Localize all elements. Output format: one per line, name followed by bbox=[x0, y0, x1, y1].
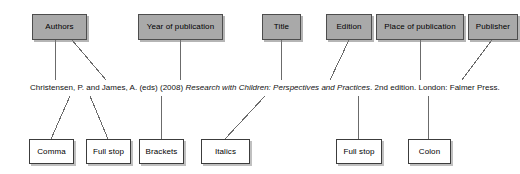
punctuation-box-comma-label: Comma bbox=[37, 148, 66, 156]
element-box-title-label: Title bbox=[274, 23, 289, 31]
element-box-place-of-publication-label: Place of publication bbox=[384, 23, 455, 31]
element-box-authors-label: Authors bbox=[45, 23, 73, 31]
punctuation-box-full-stop-2[interactable]: Full stop bbox=[336, 139, 382, 164]
wire-comma bbox=[51, 96, 70, 139]
punctuation-box-colon-label: Colon bbox=[419, 148, 440, 156]
element-box-publisher-label: Publisher bbox=[476, 23, 510, 31]
citation-text: Christensen, P. and James, A. (eds) (200… bbox=[30, 82, 500, 93]
element-box-title[interactable]: Title bbox=[262, 14, 301, 40]
wire-fullstop-1 bbox=[90, 96, 108, 139]
citation-breakdown-diagram: Authors Year of publication Title Editio… bbox=[0, 0, 520, 174]
element-box-year-of-publication-label: Year of publication bbox=[147, 23, 214, 31]
citation-authors-year: Christensen, P. and James, A. (eds) (200… bbox=[30, 83, 185, 92]
element-box-edition[interactable]: Edition bbox=[326, 14, 372, 40]
wire-italics bbox=[225, 96, 265, 139]
element-box-authors[interactable]: Authors bbox=[32, 14, 87, 40]
punctuation-box-italics[interactable]: Italics bbox=[201, 139, 250, 164]
wire-authors-2 bbox=[72, 40, 106, 80]
punctuation-box-full-stop-1[interactable]: Full stop bbox=[86, 139, 131, 164]
punctuation-box-comma[interactable]: Comma bbox=[29, 139, 74, 164]
punctuation-box-brackets[interactable]: Brackets bbox=[139, 139, 184, 164]
citation-title-italic: Research with Children: Perspectives and… bbox=[185, 83, 370, 92]
wire-publisher bbox=[462, 40, 492, 80]
punctuation-box-brackets-label: Brackets bbox=[146, 148, 178, 156]
element-box-edition-label: Edition bbox=[336, 23, 361, 31]
punctuation-box-full-stop-2-label: Full stop bbox=[343, 148, 374, 156]
citation-edition-place-publisher: . 2nd edition. London: Falmer Press. bbox=[370, 83, 500, 92]
element-box-year-of-publication[interactable]: Year of publication bbox=[138, 14, 223, 40]
element-box-place-of-publication[interactable]: Place of publication bbox=[376, 14, 464, 40]
punctuation-box-italics-label: Italics bbox=[215, 148, 236, 156]
punctuation-box-full-stop-1-label: Full stop bbox=[93, 148, 124, 156]
wire-edition bbox=[330, 40, 349, 80]
element-box-publisher[interactable]: Publisher bbox=[468, 14, 518, 40]
punctuation-box-colon[interactable]: Colon bbox=[408, 139, 451, 164]
